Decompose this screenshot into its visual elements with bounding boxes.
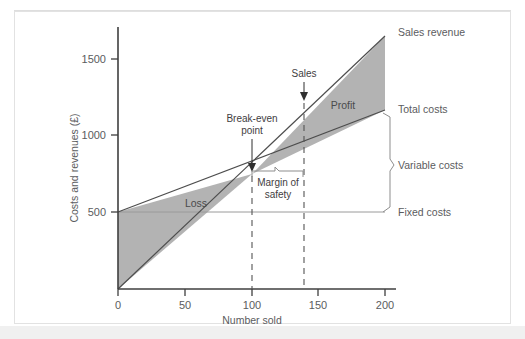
series-label-variable-costs: Variable costs [398, 159, 463, 171]
region-label-loss: Loss [185, 197, 207, 209]
breakeven-chart-figure: 1500 1000 500 0 50 100 150 200 Number so… [0, 0, 525, 339]
margin-of-safety-label-line1: Margin of [257, 177, 299, 188]
sales-arrow-head [300, 92, 308, 101]
y-axis-title: Costs and revenues (£) [68, 113, 80, 222]
series-label-fixed-costs: Fixed costs [398, 206, 451, 218]
x-axis-title: Number sold [222, 314, 282, 326]
x-tick-label-0: 0 [115, 299, 121, 311]
series-label-total-costs: Total costs [398, 103, 448, 115]
chart-canvas: 1500 1000 500 0 50 100 150 200 Number so… [0, 0, 525, 339]
break-even-label-line2: point [241, 125, 263, 136]
series-label-sales-revenue: Sales revenue [398, 26, 465, 38]
y-tick-label-1500: 1500 [82, 53, 106, 65]
variable-costs-bracket [383, 113, 394, 212]
x-tick-label-50: 50 [179, 299, 191, 311]
x-tick-label-200: 200 [376, 299, 394, 311]
sales-annotation: Sales [291, 68, 316, 101]
margin-of-safety-label-line2: safety [265, 189, 292, 200]
x-tick-label-100: 100 [243, 299, 261, 311]
x-tick-label-150: 150 [309, 299, 327, 311]
y-tick-label-500: 500 [88, 206, 106, 218]
y-tick-label-1000: 1000 [82, 129, 106, 141]
region-loss-fill [118, 174, 252, 289]
break-even-label-line1: Break-even [226, 113, 277, 124]
region-label-profit: Profit [331, 99, 356, 111]
sales-label: Sales [291, 68, 316, 79]
